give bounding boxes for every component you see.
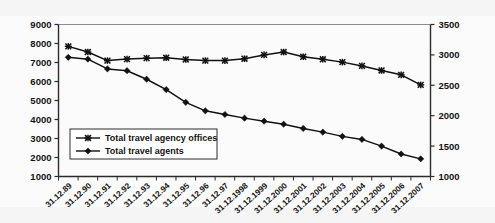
svg-text:1000: 1000 bbox=[30, 171, 51, 182]
svg-text:6000: 6000 bbox=[30, 76, 51, 87]
svg-text:1000: 1000 bbox=[439, 171, 460, 182]
line-chart: 100020003000400050006000700080009000 100… bbox=[0, 0, 495, 223]
right-axis: 100015002000250030003500 bbox=[431, 19, 460, 182]
svg-text:5000: 5000 bbox=[30, 95, 51, 106]
svg-text:2000: 2000 bbox=[30, 152, 51, 163]
svg-text:Total travel agency offices: Total travel agency offices bbox=[105, 133, 217, 143]
svg-text:3000: 3000 bbox=[30, 133, 51, 144]
svg-text:7000: 7000 bbox=[30, 57, 51, 68]
svg-text:1500: 1500 bbox=[439, 141, 460, 152]
svg-text:9000: 9000 bbox=[30, 19, 51, 30]
svg-text:3000: 3000 bbox=[439, 49, 460, 60]
x-axis: 31.12.8931.12.9031.12.9131.12.9231.12.93… bbox=[44, 177, 431, 216]
chart-container: 100020003000400050006000700080009000 100… bbox=[0, 0, 495, 223]
legend: Total travel agency officesTotal travel … bbox=[70, 129, 217, 159]
svg-text:3500: 3500 bbox=[439, 19, 460, 30]
left-axis: 100020003000400050006000700080009000 bbox=[30, 19, 58, 182]
svg-text:2500: 2500 bbox=[439, 80, 460, 91]
svg-text:2000: 2000 bbox=[439, 110, 460, 121]
svg-text:Total travel agents: Total travel agents bbox=[105, 146, 184, 156]
svg-text:8000: 8000 bbox=[30, 38, 51, 49]
svg-text:4000: 4000 bbox=[30, 114, 51, 125]
